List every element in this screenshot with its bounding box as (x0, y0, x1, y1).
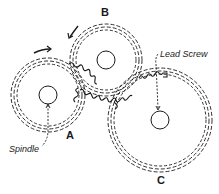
rotation-arrow-b-icon (70, 26, 78, 37)
gear-b (70, 24, 142, 96)
gear-a-label: A (66, 129, 74, 141)
gear-c-label: C (157, 174, 165, 186)
spindle-label: Spindle (9, 144, 39, 154)
gear-train-diagram: B A C Spindle Lead Screw (0, 0, 219, 194)
gear-c (108, 68, 212, 172)
gear-a-hub (39, 86, 57, 104)
lead-screw-label: Lead Screw (160, 49, 208, 59)
gear-b-label: B (101, 6, 109, 18)
gear-c-hub (151, 111, 169, 129)
gear-teeth-a-lower (74, 88, 79, 102)
lead-screw-leader-line (156, 54, 158, 108)
gear-teeth-b-c (139, 72, 167, 79)
gear-b-hub (97, 51, 115, 69)
